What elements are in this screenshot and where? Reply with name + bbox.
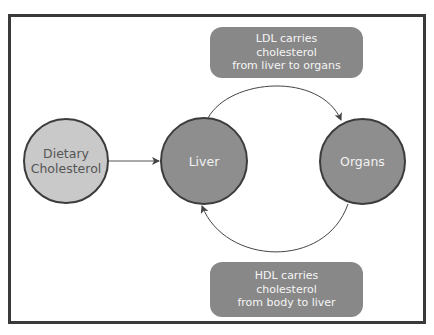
node-liver: Liver <box>160 117 248 205</box>
ldl-label-text: LDL carries cholesterol from liver to or… <box>232 32 341 73</box>
arrow-liver-to-organs <box>208 86 341 120</box>
arrow-organs-to-liver <box>202 204 348 252</box>
node-organs: Organs <box>319 118 406 205</box>
node-dietary-cholesterol: Dietary Cholesterol <box>23 118 109 204</box>
node-organs-label: Organs <box>340 154 385 169</box>
node-dietary-label: Dietary Cholesterol <box>31 146 102 176</box>
hdl-label-text: HDL carries cholesterol from body to liv… <box>237 269 335 310</box>
hdl-label-box: HDL carries cholesterol from body to liv… <box>210 262 363 317</box>
ldl-label-box: LDL carries cholesterol from liver to or… <box>210 27 363 78</box>
node-liver-label: Liver <box>189 154 220 169</box>
